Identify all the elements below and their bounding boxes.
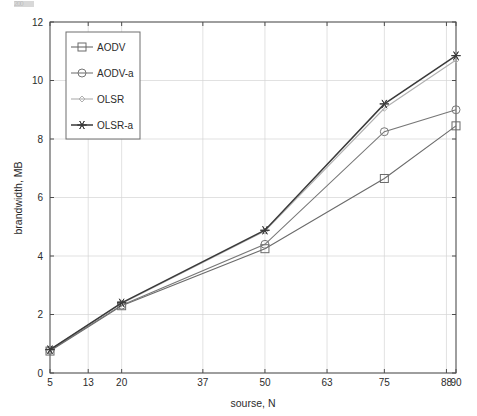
legend[interactable]: AODVAODV-aOLSROLSR-a [66,32,140,139]
x-tick-label: 5 [47,377,53,388]
x-axis-tick-labels: 51320375063758890 [47,377,462,388]
x-tick-label: 63 [321,377,333,388]
y-axis-tick-labels: 024681012 [32,17,44,379]
x-tick-label: 90 [450,377,462,388]
series-aodv-a [46,106,460,354]
series-aodv [46,122,460,355]
line-chart: 51320375063758890 024681012 sourse, N br… [0,0,477,416]
legend-item-aodv[interactable]: AODV [71,42,126,53]
x-tick-label: 13 [83,377,95,388]
x-axis-title: sourse, N [231,397,276,409]
legend-item-aodv-a[interactable]: AODV-a [71,68,134,79]
y-tick-label: 10 [32,75,44,86]
y-tick-label: 0 [37,368,43,379]
legend-label: OLSR [97,94,124,105]
y-tick-label: 8 [37,134,43,145]
legend-label: OLSR-a [97,120,134,131]
figure-canvas: 200 51320375063758890 024681012 sourse, … [0,0,477,416]
y-tick-label: 4 [37,251,43,262]
y-axis-title: brandwidth, MB [12,162,24,235]
x-tick-label: 75 [379,377,391,388]
x-tick-label: 50 [259,377,271,388]
x-tick-label: 37 [197,377,209,388]
legend-label: AODV-a [97,68,134,79]
y-tick-label: 6 [37,192,43,203]
y-tick-label: 12 [32,17,44,28]
y-tick-label: 2 [37,309,43,320]
legend-label: AODV [97,42,126,53]
x-tick-label: 20 [116,377,128,388]
